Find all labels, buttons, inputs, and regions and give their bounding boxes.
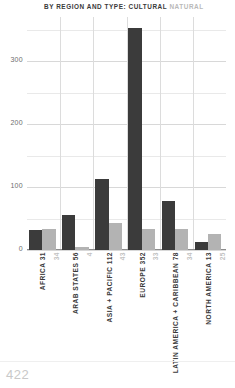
bar-group [127, 17, 160, 250]
bar-group [27, 17, 60, 250]
plot-area [27, 17, 226, 250]
x-label-natural: 34 [53, 252, 60, 260]
x-label-natural: 33 [152, 252, 159, 260]
bar-group [193, 17, 226, 250]
x-label-natural: 4 [86, 252, 93, 256]
bar-series-layer [27, 17, 226, 250]
x-label-natural: 43 [119, 252, 126, 260]
x-label-cultural: NORTH AMERICA 13 [205, 252, 212, 325]
x-label-cultural: ASIA + PACIFIC 112 [106, 252, 113, 322]
x-label-natural: 34 [186, 252, 193, 260]
bar-cultural[interactable] [29, 230, 42, 250]
bar-group [93, 17, 126, 250]
bar-cultural[interactable] [162, 201, 175, 250]
bar-group [160, 17, 193, 250]
x-label-cultural: AFRICA 31 [39, 252, 46, 290]
bar-natural[interactable] [109, 223, 122, 250]
chart-root: BY REGION AND TYPE: CULTURAL NATURAL 010… [0, 0, 235, 388]
y-tick-label: 200 [0, 119, 23, 126]
page-number: 422 [6, 367, 29, 382]
chart-title-prefix: BY REGION AND TYPE: [44, 3, 126, 10]
bar-cultural[interactable] [195, 242, 208, 250]
bar-cultural[interactable] [95, 179, 108, 250]
y-tick-label: 0 [0, 245, 23, 252]
footer-divider [0, 361, 235, 362]
x-label-cultural: LATIN AMERICA + CARIBBEAN 78 [172, 252, 179, 373]
x-label-cultural: ARAB STATES 56 [72, 252, 79, 314]
x-axis-labels: AFRICA 3134ARAB STATES 564ASIA + PACIFIC… [27, 252, 226, 382]
bar-cultural[interactable] [62, 215, 75, 250]
x-label-cultural: EUROPE 352 [139, 252, 146, 298]
bar-natural[interactable] [175, 229, 188, 250]
bar-group [60, 17, 93, 250]
y-tick-label: 300 [0, 56, 23, 63]
gridline-major [27, 250, 226, 251]
chart-title: BY REGION AND TYPE: CULTURAL NATURAL [44, 3, 204, 10]
x-label-natural: 25 [219, 252, 226, 260]
bar-natural[interactable] [75, 247, 88, 250]
legend-item-cultural: CULTURAL [129, 3, 168, 10]
y-tick-label: 100 [0, 182, 23, 189]
legend-item-natural: NATURAL [169, 3, 203, 10]
bar-natural[interactable] [142, 229, 155, 250]
bar-cultural[interactable] [128, 28, 141, 250]
bar-natural[interactable] [208, 234, 221, 250]
bar-natural[interactable] [42, 229, 55, 250]
